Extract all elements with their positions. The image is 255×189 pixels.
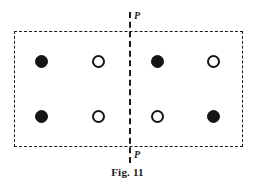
atom-site-open bbox=[92, 110, 105, 123]
symmetry-plane-label-top: P bbox=[134, 11, 140, 21]
atom-site-filled bbox=[35, 110, 48, 123]
symmetry-plane-line bbox=[129, 12, 131, 163]
atom-site-filled bbox=[35, 55, 48, 68]
atom-site-filled bbox=[151, 55, 164, 68]
figure-caption: Fig. 11 bbox=[0, 166, 255, 178]
atom-site-open bbox=[92, 55, 105, 68]
atom-site-open bbox=[207, 55, 220, 68]
atom-site-open bbox=[151, 110, 164, 123]
symmetry-plane-label-bottom: P bbox=[134, 150, 140, 160]
figure-diagram: P P Fig. 11 bbox=[0, 0, 255, 189]
atom-site-filled bbox=[207, 110, 220, 123]
